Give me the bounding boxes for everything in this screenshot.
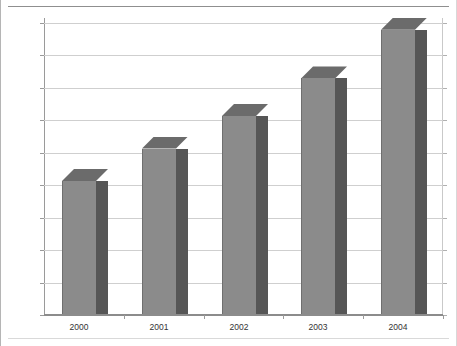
x-axis-tick-mark — [363, 315, 364, 319]
x-axis-tick-mark — [283, 315, 284, 319]
bar-front-face — [62, 181, 97, 314]
bar-front-face — [142, 149, 177, 314]
bar-chart: $450$400$350$300$250$200$150$100$50$0 20… — [0, 0, 457, 346]
page-border-left — [0, 0, 1, 346]
y-axis-tick-mark — [40, 55, 44, 56]
y-axis-tick-mark — [40, 250, 44, 251]
y-axis-tick-mark-right — [443, 120, 447, 121]
x-axis-tick-mark — [204, 315, 205, 319]
bottom-divider-rule — [8, 338, 449, 339]
bar-top-face — [142, 137, 188, 149]
bar-column — [62, 169, 108, 314]
y-axis-tick-mark — [40, 88, 44, 89]
bar-column — [142, 137, 188, 314]
bar-front-face — [301, 78, 336, 314]
plot-right-border — [442, 18, 443, 315]
bar-top-face — [222, 104, 268, 116]
x-axis-tick-label: 2004 — [381, 322, 415, 332]
bar-side-face — [415, 30, 427, 314]
bar-front-face — [222, 116, 257, 314]
y-axis-tick-mark-right — [443, 23, 447, 24]
bar-column — [381, 18, 427, 314]
bar-side-face — [176, 149, 188, 314]
y-axis-tick-mark-right — [443, 218, 447, 219]
y-axis-tick-mark — [40, 283, 44, 284]
plot-area — [44, 18, 443, 315]
y-axis-tick-mark-right — [443, 283, 447, 284]
x-axis-tick-mark — [124, 315, 125, 319]
y-axis-tick-mark — [40, 315, 44, 316]
bar-top-face — [62, 169, 108, 181]
y-axis-tick-mark-right — [443, 153, 447, 154]
y-axis-tick-mark-right — [443, 185, 447, 186]
x-axis-tick-label: 2000 — [62, 322, 96, 332]
y-axis-tick-mark-right — [443, 55, 447, 56]
y-axis-tick-mark-right — [443, 250, 447, 251]
y-axis-tick-mark — [40, 120, 44, 121]
top-divider-rule — [8, 6, 449, 7]
bar-top-face — [301, 66, 347, 78]
y-axis-tick-mark — [40, 185, 44, 186]
bar-side-face — [335, 78, 347, 314]
gridline — [44, 315, 443, 316]
x-axis-tick-label: 2003 — [301, 322, 335, 332]
y-axis-line — [44, 18, 45, 315]
bar-column — [301, 66, 347, 314]
bar-side-face — [256, 116, 268, 314]
y-axis-tick-mark — [40, 218, 44, 219]
bar-column — [222, 104, 268, 314]
bar-front-face — [381, 30, 416, 314]
bar-top-face — [381, 18, 427, 30]
x-axis-tick-label: 2002 — [222, 322, 256, 332]
x-axis-tick-label: 2001 — [142, 322, 176, 332]
x-axis-tick-mark — [443, 315, 444, 319]
y-axis-tick-mark-right — [443, 88, 447, 89]
bar-side-face — [96, 181, 108, 314]
y-axis-tick-mark — [40, 153, 44, 154]
y-axis-tick-mark — [40, 23, 44, 24]
